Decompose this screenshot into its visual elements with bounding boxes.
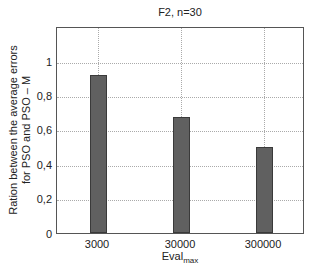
xtick-label: 3000 bbox=[85, 238, 109, 250]
y-axis-label: Ration between the average errors for PS… bbox=[7, 45, 33, 214]
chart-title: F2, n=30 bbox=[56, 6, 304, 18]
bar-30000 bbox=[173, 117, 190, 233]
ytick-label: 0,2 bbox=[37, 193, 52, 205]
bar-300000 bbox=[256, 147, 273, 233]
xtick-label: 30000 bbox=[165, 238, 196, 250]
ytick-label: 0 bbox=[46, 228, 52, 240]
xtick-label: 300000 bbox=[245, 238, 282, 250]
bar-3000 bbox=[90, 75, 107, 233]
ytick-label: 0,8 bbox=[37, 90, 52, 102]
x-axis-label: Evalmax bbox=[162, 250, 199, 265]
y-axis-label-line2: for PSO and PSO – M bbox=[20, 45, 33, 214]
ytick-label: 0,6 bbox=[37, 124, 52, 136]
plot-area bbox=[56, 27, 304, 234]
ytick-label: 1 bbox=[46, 56, 52, 68]
x-axis-label-subscript: max bbox=[183, 256, 198, 265]
y-axis-label-line1: Ration between the average errors bbox=[7, 45, 20, 214]
ytick-label: 0,4 bbox=[37, 159, 52, 171]
x-axis-label-main: Eval bbox=[162, 250, 183, 262]
gridline-1 bbox=[57, 63, 303, 64]
